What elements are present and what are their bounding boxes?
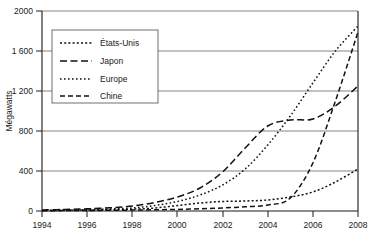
x-tickmarks [42, 211, 358, 217]
legend-label-japon: Japon [100, 56, 123, 66]
y-tickmarks [36, 11, 42, 211]
x-tick-label-1998: 1998 [123, 220, 142, 230]
series-line-etats-unis [42, 169, 358, 211]
line-chart-figure: 2000 1 600 1 200 800 400 0 1994 1996 199… [0, 0, 373, 242]
y-tick-label-400: 400 [19, 166, 33, 176]
y-tick-label-0: 0 [28, 206, 33, 216]
x-tick-label-2006: 2006 [304, 220, 323, 230]
x-tick-label-2004: 2004 [259, 220, 278, 230]
x-tick-label-2008: 2008 [349, 220, 368, 230]
y-tick-label-800: 800 [19, 126, 33, 136]
y-axis-title: Mégawatts [4, 90, 14, 131]
legend-label-chine: Chine [100, 91, 122, 101]
series-line-japon [42, 86, 358, 210]
x-tick-label-2002: 2002 [214, 220, 233, 230]
y-tick-label-1600: 1 600 [12, 46, 34, 56]
x-tick-label-2000: 2000 [168, 220, 187, 230]
legend-label-etats-unis: États-Unis [100, 38, 139, 48]
x-tick-labels: 1994 1996 1998 2000 2002 2004 2006 2008 [33, 220, 368, 230]
y-tick-labels: 2000 1 600 1 200 800 400 0 [12, 6, 34, 216]
y-tick-label-2000: 2000 [14, 6, 33, 16]
legend-label-europe: Europe [100, 74, 128, 84]
x-tick-label-1996: 1996 [78, 220, 97, 230]
x-tick-label-1994: 1994 [33, 220, 52, 230]
y-tick-label-1200: 1 200 [12, 86, 34, 96]
legend: États-Unis Japon Europe Chine [52, 30, 158, 103]
